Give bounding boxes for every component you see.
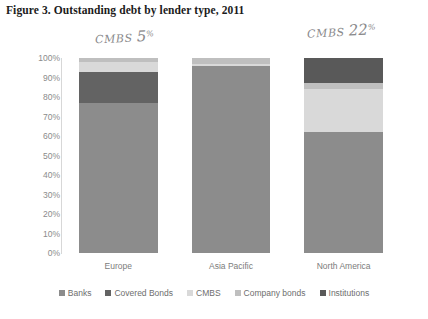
- page-title: Figure 3. Outstanding debt by lender typ…: [6, 4, 244, 16]
- legend-swatch-icon: [235, 290, 241, 296]
- bar-segment-banks[interactable]: [192, 66, 271, 253]
- legend-item-label: Covered Bonds: [114, 288, 173, 298]
- bar-segment-company-bonds[interactable]: [192, 58, 271, 64]
- annotation-label: CMBS: [95, 32, 133, 47]
- y-axis-tick-label: 80%: [16, 92, 60, 102]
- bar-segment-covered-bonds[interactable]: [79, 72, 158, 103]
- bar-segment-cmbs[interactable]: [79, 62, 158, 72]
- legend-item-label: Company bonds: [244, 288, 306, 298]
- bar-segment-cmbs[interactable]: [304, 89, 383, 132]
- y-axis-tick-label: 50%: [16, 151, 60, 161]
- bar-segment-banks[interactable]: [79, 103, 158, 253]
- y-axis-tick-label: 60%: [16, 131, 60, 141]
- annotation-value: 22: [348, 21, 368, 40]
- y-axis-tick-label: 0%: [16, 248, 60, 258]
- legend-item-company-bonds[interactable]: Company bonds: [235, 288, 306, 298]
- legend-item-label: CMBS: [196, 288, 221, 298]
- legend-item-banks[interactable]: Banks: [59, 288, 92, 298]
- handwritten-annotation-northamerica-cmbs: CMBS 22%: [307, 20, 377, 42]
- y-axis-tick-label: 70%: [16, 112, 60, 122]
- x-axis-category-label: North America: [287, 261, 400, 271]
- bar-stack: [192, 58, 271, 253]
- bar-group[interactable]: [304, 58, 383, 253]
- bar-group[interactable]: [79, 58, 158, 253]
- legend-item-covered-bonds[interactable]: Covered Bonds: [105, 288, 173, 298]
- annotation-unit: %: [368, 23, 377, 32]
- bar-segment-banks[interactable]: [304, 132, 383, 253]
- annotation-unit: %: [146, 29, 155, 38]
- legend-item-label: Institutions: [329, 288, 370, 298]
- x-axis-category-label: Europe: [62, 261, 175, 271]
- handwritten-annotation-europe-cmbs: CMBS 5%: [95, 27, 155, 48]
- bar-segment-cmbs[interactable]: [192, 64, 271, 66]
- bar-segment-company-bonds[interactable]: [304, 83, 383, 89]
- bar-segment-institutions[interactable]: [304, 58, 383, 83]
- x-axis-category-label: Asia Pacific: [175, 261, 288, 271]
- annotation-label: CMBS: [307, 26, 345, 41]
- y-axis-tick-label: 20%: [16, 209, 60, 219]
- bar-stack: [304, 58, 383, 253]
- bar-segment-company-bonds[interactable]: [79, 58, 158, 62]
- legend-swatch-icon: [59, 290, 65, 296]
- bar-stack: [79, 58, 158, 253]
- legend-item-institutions[interactable]: Institutions: [320, 288, 370, 298]
- bar-group[interactable]: [192, 58, 271, 253]
- legend-item-label: Banks: [68, 288, 92, 298]
- legend-swatch-icon: [187, 290, 193, 296]
- y-axis-tick-label: 30%: [16, 190, 60, 200]
- plot-region: EuropeAsia PacificNorth America: [62, 58, 400, 253]
- legend-item-cmbs[interactable]: CMBS: [187, 288, 221, 298]
- legend-swatch-icon: [105, 290, 111, 296]
- chart-legend: BanksCovered BondsCMBSCompany bondsInsti…: [0, 288, 428, 298]
- y-axis-tick-label: 10%: [16, 229, 60, 239]
- y-axis-tick-label: 90%: [16, 73, 60, 83]
- y-axis-tick-label: 40%: [16, 170, 60, 180]
- legend-swatch-icon: [320, 290, 326, 296]
- y-axis-tick-label: 100%: [16, 53, 60, 63]
- chart: 100%90%80%70%60%50%40%30%20%10%0% Europe…: [0, 52, 428, 264]
